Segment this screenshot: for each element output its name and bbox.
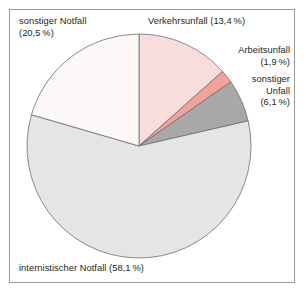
pie-chart-figure: sonstiger Notfall (20,5 %) Verkehrsunfal… (0, 0, 306, 294)
pie-label-arbeitsunfall: Arbeitsunfall (1,9 %) (170, 45, 290, 68)
pie-label-verkehrsunfall: Verkehrsunfall (13,4 %) (148, 16, 288, 28)
pie-label-sonstiger-unfall: sonstiger Unfall (6,1 %) (180, 74, 290, 109)
pie-label-sonstiger-notfall: sonstiger Notfall (20,5 %) (19, 16, 139, 39)
pie-label-internistischer-notfall: internistischer Notfall (58,1 %) (19, 263, 249, 275)
